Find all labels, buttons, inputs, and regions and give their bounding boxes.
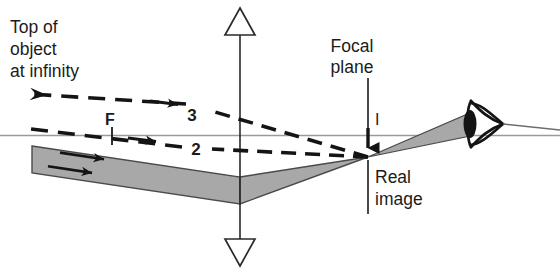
- eye: [464, 100, 560, 148]
- eye-pupil: [464, 110, 477, 138]
- diagram-canvas: 3 2 F Focal plane I Real: [0, 0, 560, 274]
- ray-2-direction-arrow: [128, 138, 156, 142]
- focal-plane-label-line2: plane: [331, 57, 374, 77]
- ray-2-left-segment: [22, 128, 182, 147]
- ray-3-label: 3: [187, 106, 196, 125]
- beam-converging-segment: [240, 157, 368, 204]
- real-image-annotation: Real image: [368, 160, 423, 214]
- ray-2-label: 2: [191, 140, 200, 159]
- focal-point-label: F: [105, 111, 115, 128]
- converging-lens: [225, 8, 255, 266]
- real-image-label-line1: Real: [375, 167, 411, 187]
- object-caption-line2: object: [10, 39, 57, 59]
- real-image-label-line2: image: [375, 189, 423, 209]
- object-caption-line1: Top of: [10, 17, 58, 37]
- beam-incoming-segment: [32, 146, 240, 204]
- eye-optic-nerve: [503, 124, 560, 130]
- image-point-label: I: [375, 111, 379, 128]
- focal-plane-annotation: Focal plane I: [331, 36, 380, 148]
- optics-ray-diagram: 3 2 F Focal plane I Real: [0, 0, 560, 274]
- object-caption: Top of object at infinity: [10, 17, 79, 81]
- focal-plane-label-line1: Focal: [331, 36, 374, 56]
- lens-arrowhead-bottom: [225, 239, 255, 266]
- lens-arrowhead-top: [225, 8, 255, 35]
- object-caption-line3: at infinity: [10, 61, 79, 81]
